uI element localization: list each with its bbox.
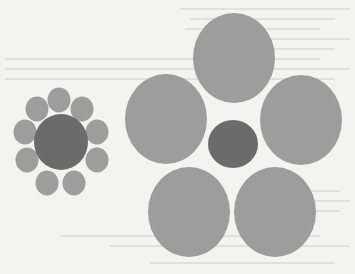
bleed-text-line: [5, 68, 350, 70]
bleed-text-line: [110, 245, 350, 247]
bleed-text-line: [150, 262, 335, 264]
left-center-circle: [34, 114, 88, 170]
right-center-circle: [208, 120, 258, 168]
small-surround-circle: [86, 120, 109, 145]
bleed-text-line: [180, 8, 350, 10]
large-surround-circle: [260, 75, 342, 165]
small-surround-circle: [48, 88, 71, 113]
small-surround-circle: [16, 148, 39, 173]
large-surround-circle: [234, 167, 316, 257]
bleed-text-line: [190, 18, 335, 20]
ebbinghaus-figure: [0, 0, 355, 274]
small-surround-circle: [36, 171, 59, 196]
small-surround-circle: [14, 120, 37, 145]
large-surround-circle: [193, 13, 275, 103]
small-surround-circle: [63, 171, 86, 196]
large-surround-circle: [125, 74, 207, 164]
small-surround-circle: [86, 148, 109, 173]
small-surround-cluster: [14, 88, 109, 196]
large-surround-circle: [148, 167, 230, 257]
small-surround-circle: [26, 97, 49, 122]
